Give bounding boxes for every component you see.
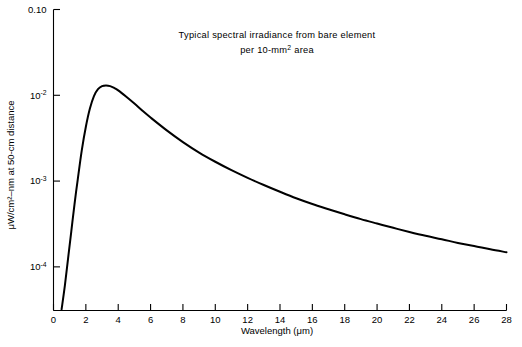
figure-container: 0.1010-210-310-4 02468101214161820222426… xyxy=(0,0,522,347)
x-axis-tick-label: 26 xyxy=(469,314,480,325)
y-axis-ticks xyxy=(54,10,61,267)
annotation-line-2-text: per 10-mm xyxy=(240,45,287,55)
x-axis-tick-label: 14 xyxy=(275,314,286,325)
x-axis-tick-label: 28 xyxy=(501,314,512,325)
plot-annotation: Typical spectral irradiance from bare el… xyxy=(179,30,376,55)
x-axis-ticks xyxy=(54,304,507,311)
y-axis-tick-label: 10-3 xyxy=(30,175,47,187)
y-axis-title: μW/cm²–nm at 50-cm distance xyxy=(5,100,16,229)
x-axis-tick-label: 10 xyxy=(210,314,221,325)
x-axis-tick-label: 24 xyxy=(436,314,447,325)
y-axis-tick-label: 0.10 xyxy=(28,4,47,15)
data-series-curve xyxy=(62,86,507,310)
x-axis-tick-labels: 0246810121416182022242628 xyxy=(51,314,512,325)
annotation-line-1: Typical spectral irradiance from bare el… xyxy=(179,30,376,40)
x-axis-tick-label: 2 xyxy=(83,314,88,325)
x-axis-tick-label: 8 xyxy=(180,314,185,325)
x-axis-tick-label: 16 xyxy=(307,314,318,325)
y-axis-tick-label: 10-4 xyxy=(30,261,47,273)
x-axis-tick-label: 18 xyxy=(339,314,350,325)
annotation-line-2-suffix: area xyxy=(291,45,314,55)
x-axis-title: Wavelength (μm) xyxy=(241,325,313,336)
annotation-line-2: per 10-mm2 area xyxy=(240,44,314,55)
x-axis-tick-label: 6 xyxy=(148,314,153,325)
x-axis-tick-label: 20 xyxy=(372,314,383,325)
x-axis-tick-label: 12 xyxy=(242,314,253,325)
x-axis-tick-label: 22 xyxy=(404,314,415,325)
x-axis-tick-label: 4 xyxy=(116,314,121,325)
x-axis-tick-label: 0 xyxy=(51,314,56,325)
y-axis-tick-label: 10-2 xyxy=(30,89,47,101)
y-axis-tick-labels: 0.1010-210-310-4 xyxy=(28,4,47,272)
spectral-irradiance-chart: 0.1010-210-310-4 02468101214161820222426… xyxy=(0,0,522,347)
